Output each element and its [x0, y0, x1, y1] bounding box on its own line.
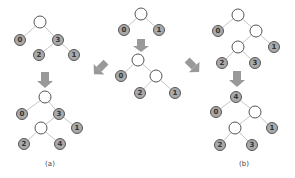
arrow-up-right-icon	[182, 55, 205, 78]
svg-text:1: 1	[72, 51, 77, 59]
tree-left-top: 0 3 2 1	[15, 16, 80, 61]
tree-center-bottom: 0 2 1	[116, 54, 181, 99]
arrow-up-left-icon	[89, 57, 112, 80]
leaf-node: 0	[213, 26, 224, 37]
internal-node	[150, 70, 162, 82]
svg-text:1: 1	[270, 124, 275, 132]
internal-node	[135, 8, 147, 20]
leaf-node: 0	[119, 25, 130, 36]
tree-left-bottom: 0 3 1 2 4	[17, 91, 83, 150]
labeled-node: 3	[53, 35, 64, 46]
leaf-node: 1	[267, 123, 278, 134]
leaf-node: 4	[55, 139, 66, 150]
leaf-node: 1	[269, 42, 280, 53]
caption-b: (b)	[239, 160, 249, 168]
leaf-node: 1	[72, 123, 83, 134]
internal-node	[249, 106, 261, 118]
caption-a: (a)	[45, 160, 55, 168]
tree-right-top: 0 1 2 3	[213, 9, 280, 69]
leaf-node: 2	[135, 88, 146, 99]
internal-node	[39, 91, 51, 103]
leaf-node: 2	[34, 50, 45, 61]
internal-node	[232, 41, 244, 53]
svg-text:1: 1	[272, 43, 277, 51]
leaf-node: 3	[250, 58, 261, 69]
leaf-node: 2	[217, 58, 228, 69]
svg-text:0: 0	[119, 72, 124, 80]
leaf-node: 1	[170, 88, 181, 99]
leaf-node: 3	[247, 140, 258, 151]
internal-node	[132, 54, 144, 66]
internal-node	[35, 122, 47, 134]
svg-text:1: 1	[75, 124, 80, 132]
internal-node	[229, 122, 241, 134]
svg-text:0: 0	[214, 108, 219, 116]
leaf-node: 1	[154, 25, 165, 36]
leaf-node: 1	[69, 50, 80, 61]
svg-text:0: 0	[20, 110, 25, 118]
svg-text:2: 2	[37, 51, 42, 59]
leaf-node: 2	[215, 140, 226, 151]
svg-text:3: 3	[253, 59, 258, 67]
svg-text:0: 0	[18, 36, 23, 44]
svg-text:3: 3	[250, 141, 255, 149]
leaf-node: 2	[19, 139, 30, 150]
tree-diagram: 0 1 0 2 1	[0, 0, 295, 178]
svg-text:4: 4	[58, 140, 63, 148]
labeled-root-node: 4	[231, 92, 242, 103]
svg-text:2: 2	[138, 89, 143, 97]
svg-text:2: 2	[22, 140, 27, 148]
tree-center-top: 0 1	[119, 8, 165, 36]
down-arrow-icon	[229, 71, 245, 87]
internal-node	[34, 16, 46, 28]
internal-node	[232, 9, 244, 21]
svg-text:3: 3	[56, 36, 61, 44]
svg-text:0: 0	[122, 26, 127, 34]
labeled-node: 3	[54, 109, 65, 120]
down-arrow-icon	[133, 39, 149, 52]
leaf-node: 0	[211, 107, 222, 118]
tree-right-bottom: 4 0 1 2 3	[211, 92, 278, 151]
leaf-node: 0	[116, 71, 127, 82]
svg-text:1: 1	[173, 89, 178, 97]
leaf-node: 0	[15, 35, 26, 46]
svg-text:0: 0	[216, 27, 221, 35]
leaf-node: 0	[17, 109, 28, 120]
internal-node	[250, 25, 262, 37]
svg-text:1: 1	[157, 26, 162, 34]
down-arrow-icon	[37, 72, 53, 88]
svg-text:3: 3	[57, 110, 62, 118]
svg-text:2: 2	[220, 59, 225, 67]
svg-text:4: 4	[234, 93, 239, 101]
svg-text:2: 2	[218, 141, 223, 149]
